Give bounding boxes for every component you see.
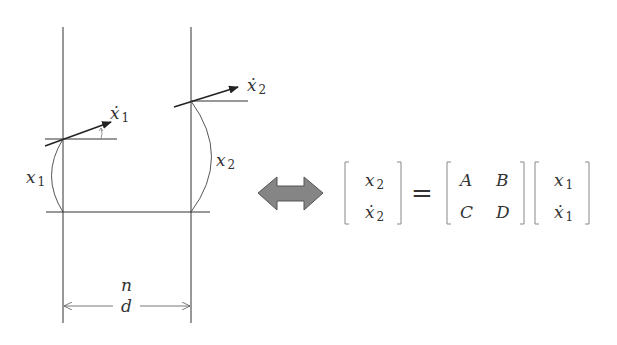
output-ray-arrow bbox=[174, 87, 238, 107]
x2-label: x2 bbox=[216, 150, 235, 172]
equals-sign: = bbox=[411, 178, 433, 208]
x1-label: x1 bbox=[26, 167, 45, 189]
svg-text:D: D bbox=[495, 202, 510, 222]
refractive-index-label: n bbox=[121, 275, 132, 295]
x1-dot-label: ẋ1 bbox=[110, 103, 129, 125]
input-vector: x1 ẋ1 bbox=[535, 162, 589, 224]
output-vector: x2 ẋ2 bbox=[345, 162, 401, 224]
x2-dot-label: ẋ2 bbox=[247, 75, 266, 97]
svg-text:x2: x2 bbox=[365, 170, 384, 192]
svg-text:C: C bbox=[460, 202, 473, 222]
svg-text:x1: x1 bbox=[554, 170, 573, 192]
svg-text:A: A bbox=[458, 170, 472, 190]
input-ray-arrow bbox=[45, 122, 111, 146]
ray-transfer-diagram: x1 ẋ1 x2 ẋ2 n d x2 ẋ2 = A B C D x1 ẋ1 bbox=[0, 0, 617, 345]
abcd-matrix: A B C D bbox=[447, 162, 524, 224]
x2-height-arc bbox=[191, 101, 212, 212]
x1-height-arc bbox=[52, 139, 64, 212]
double-headed-arrow-icon bbox=[258, 177, 323, 210]
svg-text:ẋ2: ẋ2 bbox=[365, 202, 384, 224]
svg-text:B: B bbox=[495, 170, 509, 190]
distance-label: d bbox=[121, 296, 132, 316]
svg-text:ẋ1: ẋ1 bbox=[554, 202, 573, 224]
